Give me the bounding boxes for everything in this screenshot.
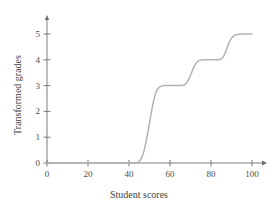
y-axis-arrow-icon (45, 15, 49, 20)
x-axis-arrow-icon (262, 161, 267, 166)
y-tick-label-2: 2 (27, 107, 40, 116)
chart-figure: 0 20 40 60 80 100 0 1 2 3 4 5 Student sc… (0, 0, 278, 212)
x-tick-label-20: 20 (84, 170, 93, 179)
y-tick-label-5: 5 (27, 30, 40, 39)
y-axis-title: Transformed grades (13, 25, 23, 165)
chart-plot-area (0, 0, 278, 212)
x-tick-label-60: 60 (166, 170, 175, 179)
y-tick-label-1: 1 (27, 133, 40, 142)
y-tick-label-3: 3 (27, 81, 40, 90)
data-series-line (47, 34, 252, 163)
x-tick-label-100: 100 (245, 170, 259, 179)
x-tick-label-0: 0 (45, 170, 50, 179)
y-tick-label-4: 4 (27, 55, 40, 64)
x-tick-label-40: 40 (125, 170, 134, 179)
x-tick-label-80: 80 (207, 170, 216, 179)
y-tick-label-0: 0 (27, 159, 40, 168)
x-axis-title: Student scores (0, 190, 278, 200)
